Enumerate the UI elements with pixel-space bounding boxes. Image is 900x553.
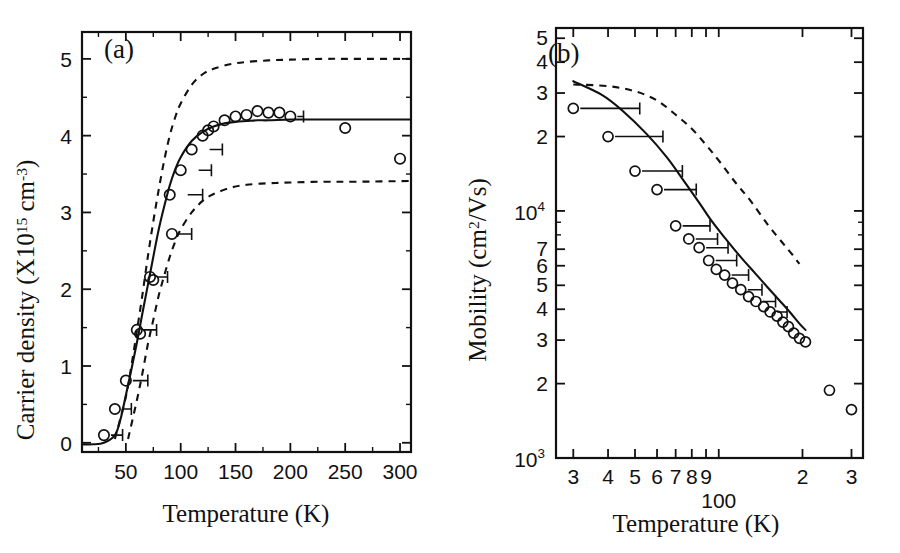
panel-b-data-point [824, 385, 834, 395]
panel-b-x-ticklabel: 7 [670, 465, 682, 488]
y-title-paren: ) [12, 160, 40, 168]
panel-b-frame [556, 28, 863, 458]
panel-b-y-ticklabel-power: 103 [514, 446, 545, 471]
panel-a-lower-dashed-curve [128, 181, 411, 439]
panel-b-y-ticklabel: 5 [536, 26, 548, 49]
panel-b-x-ticklabel: 3 [846, 465, 858, 488]
panel-a-carrier-density: 50100150200250300012345 Carrier density … [0, 0, 450, 553]
panel-b-data-point [694, 243, 704, 253]
panel-a-y-ticklabel: 0 [60, 432, 72, 455]
panel-a-data-point [99, 430, 109, 440]
y-title-exp-2: 2 [465, 221, 482, 229]
power-exponent: 3 [538, 446, 545, 461]
power-exponent: 4 [538, 199, 546, 214]
panel-a-fit-curve [82, 119, 411, 444]
panel-a-y-axis-title: Carrier density (X1015 cm-3) [12, 160, 40, 440]
panel-a-frame [82, 32, 411, 452]
panel-b-data-point [759, 302, 769, 312]
panel-b-data-point [652, 185, 662, 195]
panel-a-y-ticklabel: 5 [60, 48, 72, 71]
panel-b-data-point [846, 405, 856, 415]
panel-b-error-bar [642, 165, 682, 177]
panel-a-data-point [340, 123, 350, 133]
panel-b-fit-curve [573, 81, 805, 330]
panel-a-x-ticklabel: 150 [218, 460, 253, 483]
panel-b-mobility: 3456789100231032345671042345 Mobility (c… [450, 0, 900, 553]
panel-a-error-bar [199, 164, 212, 176]
panel-b-y-ticklabel: 3 [536, 81, 548, 104]
panel-a-tag: (a) [104, 34, 134, 64]
panel-b-data-point [704, 256, 714, 266]
panel-a-error-bar [177, 228, 192, 240]
panel-b-x-ticklabel: 100 [701, 489, 736, 512]
y-title-part-2: /Vs) [464, 178, 492, 221]
panel-a-svg: 50100150200250300012345 Carrier density … [0, 0, 450, 553]
panel-a-y-ticklabel: 1 [60, 355, 72, 378]
panel-b-y-ticklabel: 7 [536, 237, 548, 260]
panel-a-x-ticklabel: 300 [383, 460, 418, 483]
panel-a-x-ticklabel: 250 [328, 460, 363, 483]
panel-a-data-point [165, 190, 175, 200]
panel-a-upper-dashed-curve [115, 59, 411, 439]
panel-b-x-axis-title: Temperature (K) [613, 510, 780, 538]
panel-a-data-point [274, 107, 284, 117]
panel-b-tag: (b) [548, 38, 579, 68]
y-title-exp-neg3: -3 [13, 168, 30, 181]
panel-a-x-ticklabel: 200 [273, 460, 308, 483]
panel-a-x-axis-title: Temperature (K) [163, 500, 330, 528]
panel-a-x-ticklabel: 50 [114, 460, 137, 483]
panel-a-y-ticklabel: 3 [60, 201, 72, 224]
panel-b-error-bar [683, 220, 710, 232]
figure-root: 50100150200250300012345 Carrier density … [0, 0, 900, 553]
panel-a-data-point [230, 111, 240, 121]
panel-b-plot-area: 3456789100231032345671042345 [514, 26, 863, 512]
svg-text:Carrier density (X1015 cm-3): Carrier density (X1015 cm-3) [12, 160, 40, 440]
power-base: 10 [514, 448, 537, 471]
panel-a-plot-area: 50100150200250300012345 [60, 32, 417, 483]
panel-a-error-bar [210, 143, 223, 155]
panel-a-data-point [186, 144, 196, 154]
panel-b-error-bar [580, 102, 639, 114]
panel-b-y-ticklabel: 3 [536, 328, 548, 351]
y-title-exp-15: 15 [13, 218, 30, 234]
panel-b-error-bar [664, 184, 696, 196]
panel-a-data-point [263, 107, 273, 117]
panel-b-data-point [671, 221, 681, 231]
panel-b-x-ticklabel: 9 [700, 465, 712, 488]
panel-b-data-point [630, 166, 640, 176]
panel-b-y-ticklabel: 4 [536, 50, 548, 73]
svg-text:Mobility (cm2/Vs): Mobility (cm2/Vs) [464, 178, 492, 361]
y-title-part-1: Carrier density (X10 [12, 233, 40, 440]
panel-b-error-bar [748, 284, 762, 296]
y-title-part-1: Mobility (cm [464, 229, 492, 362]
panel-a-data-point [252, 106, 262, 116]
panel-b-data-point [720, 270, 730, 280]
panel-b-data-point [568, 103, 578, 113]
panel-a-data-point [167, 229, 177, 239]
panel-a-error-bar [297, 110, 303, 122]
panel-b-error-bar [615, 131, 663, 143]
panel-b-upper-dashed-curve [573, 84, 799, 264]
panel-b-x-ticklabel: 5 [629, 465, 641, 488]
panel-a-error-bar [188, 189, 203, 201]
panel-b-x-ticklabel: 6 [651, 465, 663, 488]
panel-b-svg: 3456789100231032345671042345 Mobility (c… [450, 0, 900, 553]
panel-b-y-axis-title: Mobility (cm2/Vs) [464, 178, 492, 361]
panel-b-data-point [684, 234, 694, 244]
panel-b-y-ticklabel: 4 [536, 297, 548, 320]
panel-a-data-point [176, 165, 186, 175]
panel-a-data-point [395, 153, 405, 163]
panel-a-y-ticklabel: 2 [60, 278, 72, 301]
panel-b-x-ticklabel: 2 [797, 465, 809, 488]
panel-b-x-ticklabel: 4 [602, 465, 614, 488]
panel-b-y-ticklabel: 5 [536, 273, 548, 296]
panel-b-y-ticklabel-power: 104 [514, 199, 545, 224]
panel-a-data-point [241, 110, 251, 120]
panel-a-data-point [110, 404, 120, 414]
panel-b-y-ticklabel: 2 [536, 125, 548, 148]
power-base: 10 [514, 201, 537, 224]
y-title-part-2: cm [12, 180, 39, 217]
panel-b-y-ticklabel: 2 [536, 372, 548, 395]
panel-b-data-point [744, 292, 754, 302]
panel-b-x-ticklabel: 3 [567, 465, 579, 488]
